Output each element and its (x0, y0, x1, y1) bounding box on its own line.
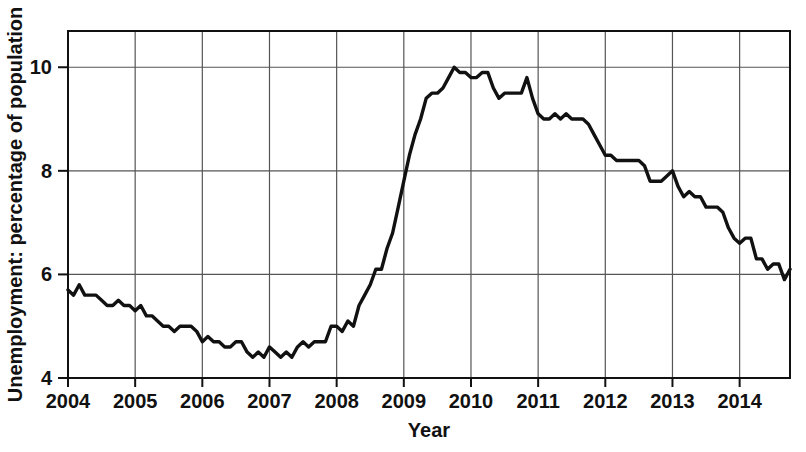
gridlines (68, 31, 790, 378)
x-tick-label: 2013 (650, 390, 695, 412)
unemployment-line (68, 67, 790, 357)
x-tick-label: 2014 (717, 390, 762, 412)
y-axis-title: Unemployment: percentage of population (4, 7, 26, 403)
x-axis-tick-labels: 2004200520062007200820092010201120122013… (46, 390, 763, 412)
y-tick-label: 8 (41, 160, 52, 182)
unemployment-chart-figure: 2004200520062007200820092010201120122013… (0, 0, 806, 452)
x-tick-label: 2006 (180, 390, 225, 412)
x-tick-label: 2012 (583, 390, 628, 412)
x-tick-label: 2011 (516, 390, 559, 412)
chart-canvas: 2004200520062007200820092010201120122013… (0, 0, 806, 452)
x-tick-label: 2005 (113, 390, 158, 412)
x-axis-ticks (68, 378, 740, 387)
x-tick-label: 2004 (46, 390, 91, 412)
x-tick-label: 2008 (314, 390, 359, 412)
x-tick-label: 2007 (247, 390, 292, 412)
y-tick-label: 6 (41, 263, 52, 285)
plot-frame (68, 31, 790, 378)
x-axis-title: Year (408, 419, 450, 441)
y-axis-ticks (58, 67, 68, 378)
x-tick-label: 2009 (382, 390, 427, 412)
x-tick-label: 2010 (449, 390, 494, 412)
y-tick-label: 10 (30, 56, 52, 78)
y-axis-tick-labels: 46810 (30, 56, 53, 389)
y-tick-label: 4 (41, 367, 53, 389)
